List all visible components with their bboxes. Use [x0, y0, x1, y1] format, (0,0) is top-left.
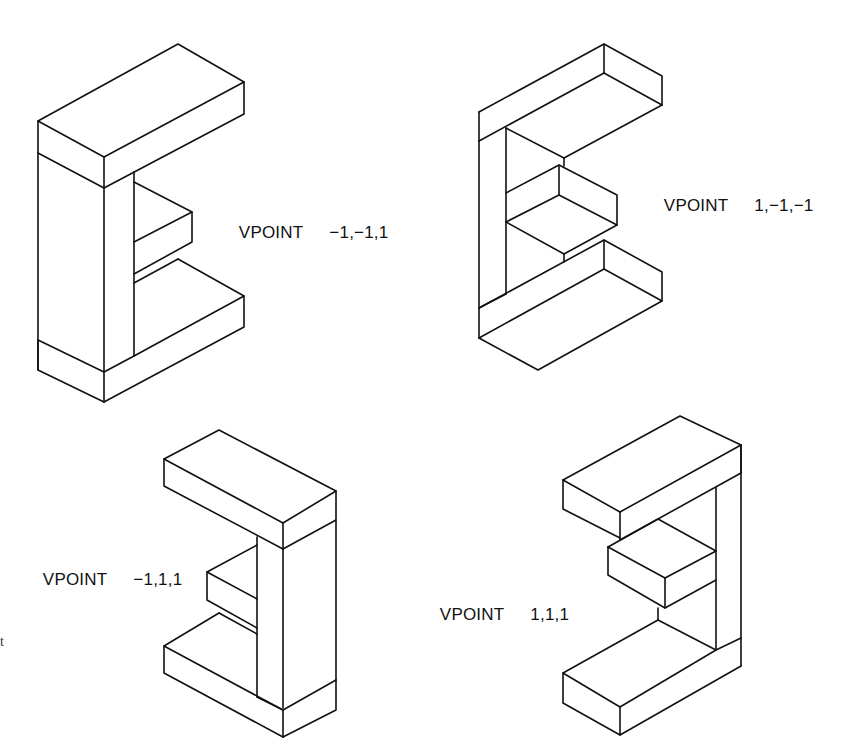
- view-1-coords: −1,−1,1: [329, 223, 388, 242]
- view-1-label: VPOINT−1,−1,1: [229, 203, 388, 243]
- view-2-coords: 1,−1,−1: [754, 196, 813, 215]
- view-4-label: VPOINT1,1,1: [430, 585, 569, 625]
- view-1-command: VPOINT: [239, 223, 304, 242]
- view-2-label: VPOINT1,−1,−1: [654, 176, 813, 216]
- view-2-command: VPOINT: [664, 196, 729, 215]
- e-solid-view-4: [563, 416, 741, 735]
- view-3-command: VPOINT: [43, 570, 108, 589]
- e-solid-view-1: [38, 44, 244, 402]
- view-4-command: VPOINT: [440, 605, 505, 624]
- e-solid-view-3: [164, 430, 336, 737]
- view-3-coords: −1,1,1: [133, 570, 182, 589]
- e-solid-view-2: [479, 44, 662, 370]
- margin-glyph: t: [0, 634, 4, 650]
- view-3-label: VPOINT−1,1,1: [33, 550, 182, 590]
- figure-canvas: [0, 0, 852, 754]
- view-4-coords: 1,1,1: [530, 605, 569, 624]
